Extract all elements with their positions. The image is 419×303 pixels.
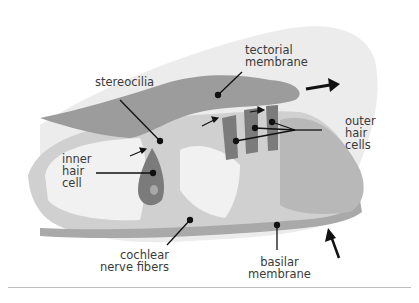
- label-tectorial-membrane: tectorial membrane: [245, 44, 308, 68]
- basilar-motion-arrow: [325, 228, 339, 258]
- footer-divider: [8, 287, 411, 288]
- label-basilar-membrane: basilar membrane: [248, 256, 311, 280]
- label-outer-hair-cells: outer hair cells: [345, 115, 376, 151]
- label-inner-hair-cell: inner hair cell: [62, 153, 92, 189]
- inner-hair-cell-nucleus: [150, 185, 158, 195]
- label-stereocilia: stereocilia: [95, 76, 154, 88]
- label-cochlear-nerve-fibers: cochlear nerve fibers: [100, 249, 169, 273]
